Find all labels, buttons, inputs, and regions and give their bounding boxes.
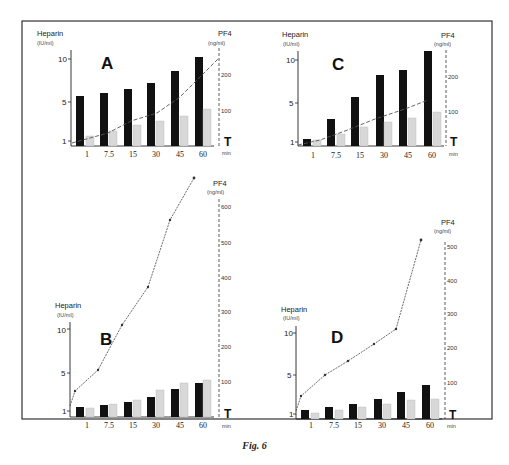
heparin-axis-unit: (IU/ml) [283,315,300,321]
pf4-tick: 200 [447,345,458,351]
pf4-line [296,240,421,411]
pf4-tick: 300 [221,309,232,315]
heparin-axis-unit: (IU/ml) [283,41,300,47]
pf4-markers [300,239,423,398]
pf4-tick: 600 [221,204,232,210]
pf4-tick: 200 [221,344,232,350]
svg-text:30: 30 [152,421,160,430]
svg-text:30: 30 [378,421,386,430]
svg-text:15: 15 [356,151,364,160]
pf4-axis-title: PF4 [441,31,455,40]
heparin-axis-title: Heparin [282,30,308,39]
pf4-axis-title: PF4 [441,218,455,227]
x-tick-labels: 1 7.5 15 30 45 60 [85,421,207,430]
heparin-axis-title: Heparin [55,301,81,310]
figure-frame [22,21,492,419]
pf4-tick: 200 [221,72,232,78]
y-tick-10: 10 [286,56,295,65]
time-unit: min [222,150,231,156]
panel-b: Heparin (IU/ml) 10 5 1 B PF4 (ng/ml) [55,177,232,430]
y-tick-1: 1 [289,410,294,419]
svg-text:1: 1 [309,421,313,430]
svg-text:45: 45 [404,151,412,160]
heparin-axis-title: Heparin [281,305,307,314]
time-symbol: T [449,408,457,422]
svg-text:60: 60 [199,421,207,430]
pf4-tick: 400 [221,275,232,281]
time-unit: min [449,151,458,157]
time-symbol: T [224,407,232,421]
pf4-tick: 100 [447,380,458,386]
svg-text:15: 15 [129,421,137,430]
x-tick-labels: 1 7.5 15 30 45 60 [311,151,436,160]
pf4-tick: 100 [221,108,232,114]
heparin-axis-unit: (IU/ml) [37,40,54,46]
y-tick-10: 10 [58,55,67,64]
svg-text:60: 60 [199,150,207,159]
svg-text:15: 15 [129,150,137,159]
panel-label-c: C [332,55,344,74]
pf4-tick: 400 [447,278,458,284]
x-tick-labels: 1 7.5 15 30 45 60 [85,150,207,159]
panel-label-d: D [331,328,343,347]
svg-text:45: 45 [176,150,184,159]
pf4-axis-unit: (ng/ml) [207,189,224,195]
time-unit: min [222,423,231,429]
svg-text:60: 60 [426,421,434,430]
pf4-tick: 100 [221,379,232,385]
svg-text:1: 1 [85,150,89,159]
pf4-axis-unit: (ng/ml) [434,228,451,234]
y-tick-5: 5 [287,371,292,380]
pf4-tick: 200 [448,74,459,80]
y-tick-5: 5 [61,369,66,378]
pf4-axis-title: PF4 [213,179,227,188]
time-symbol: T [450,135,458,149]
y-tick-10: 10 [284,329,293,338]
svg-text:1: 1 [85,421,89,430]
pf4-tick: 500 [447,244,458,250]
panel-a: Heparin (IU/ml) 10 5 1 A PF4 (ng/ml) 200… [37,29,232,159]
pf4-markers [74,177,196,393]
pf4-tick: 100 [448,109,459,115]
figure-caption: Fig. 6 [0,440,509,451]
time-unit: min [447,423,456,429]
time-symbol: T [224,135,232,149]
svg-text:7.5: 7.5 [104,150,114,159]
panel-c: Heparin (IU/ml) 10 5 1 C PF4 (ng/ml) 200… [282,30,459,160]
figure-canvas: Heparin (IU/ml) 10 5 1 A PF4 (ng/ml) 200… [0,0,509,465]
y-tick-1: 1 [62,407,67,416]
pf4-axis-unit: (ng/ml) [434,41,451,47]
pf4-line [70,178,194,406]
y-tick-5: 5 [289,99,294,108]
pf4-tick: 500 [221,240,232,246]
figure: Heparin (IU/ml) 10 5 1 A PF4 (ng/ml) 200… [0,0,509,465]
svg-text:7.5: 7.5 [329,421,339,430]
panel-d: Heparin (IU/ml) 10 5 1 D PF4 (ng/ml) 50 [281,218,458,430]
y-tick-1: 1 [62,137,67,146]
svg-text:30: 30 [152,150,160,159]
svg-text:45: 45 [176,421,184,430]
y-tick-10: 10 [57,326,66,335]
svg-text:60: 60 [428,151,436,160]
svg-text:30: 30 [380,151,388,160]
y-tick-5: 5 [62,98,67,107]
pf4-axis-unit: (ng/ml) [208,40,225,46]
panel-label-a: A [101,54,113,73]
y-tick-1: 1 [290,138,295,147]
svg-text:45: 45 [402,421,410,430]
pf4-axis-title: PF4 [218,29,232,38]
svg-text:7.5: 7.5 [104,421,114,430]
svg-text:1: 1 [311,151,315,160]
x-tick-labels: 1 7.5 15 30 45 60 [309,421,434,430]
pf4-tick: 300 [447,311,458,317]
heparin-axis-title: Heparin [37,29,63,38]
svg-text:7.5: 7.5 [331,151,341,160]
heparin-axis-unit: (IU/ml) [57,312,74,318]
svg-text:15: 15 [354,421,362,430]
